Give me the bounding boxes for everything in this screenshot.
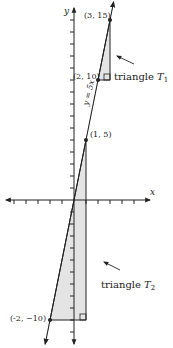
- point-label: (2, 10): [73, 72, 100, 81]
- point-label: (-2, −10): [10, 314, 46, 323]
- annotation-arrow: [117, 56, 134, 64]
- line-label: y = 5x: [81, 79, 96, 108]
- triangle-label-T2: triangle T2: [101, 279, 155, 292]
- point: [48, 318, 52, 322]
- diagram: xy y = 5x (3, 15)(2, 10)(1, 5)(-2, −10)t…: [0, 0, 173, 348]
- point-label: (1, 5): [90, 130, 112, 139]
- annotation-arrow: [104, 262, 120, 270]
- triangle-label-T1: triangle T1: [114, 71, 168, 84]
- point-label: (3, 15): [84, 11, 111, 20]
- x-axis-label: x: [150, 187, 155, 197]
- y-axis-label: y: [63, 6, 70, 16]
- point: [84, 138, 88, 142]
